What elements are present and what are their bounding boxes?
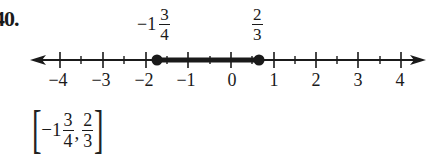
tick-label-4: 4 <box>396 70 405 91</box>
open-bracket: [ <box>32 104 42 156</box>
tick-label-0: 0 <box>228 70 237 91</box>
tick-label-neg1: −1 <box>176 70 195 91</box>
answer-right-fraction: 2 3 <box>82 111 93 150</box>
left-closed-dot-icon <box>152 55 163 66</box>
answer-left-numerator: 3 <box>63 111 74 131</box>
tick-label-neg3: −3 <box>91 70 110 91</box>
close-bracket: ] <box>94 104 104 156</box>
tick-label-2: 2 <box>312 70 321 91</box>
answer-left-fraction: 3 4 <box>63 111 74 150</box>
interval-notation: [ −1 3 4 , 2 3 ] <box>28 104 108 156</box>
answer-separator: , <box>75 122 80 144</box>
tick-label-1: 1 <box>270 70 279 91</box>
tick-label-neg4: −4 <box>48 70 67 91</box>
answer-right-numerator: 2 <box>82 111 93 131</box>
answer-left-whole: −1 <box>41 119 61 141</box>
answer-right-denominator: 3 <box>83 131 92 150</box>
right-closed-dot-icon <box>254 55 265 66</box>
tick-label-neg2: −2 <box>134 70 153 91</box>
tick-label-3: 3 <box>354 70 363 91</box>
answer-left-denominator: 4 <box>64 131 73 150</box>
